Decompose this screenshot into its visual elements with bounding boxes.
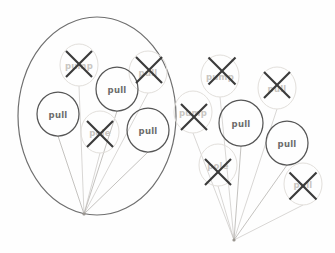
convergence-point-layer xyxy=(82,212,235,241)
node-outline-l3 xyxy=(96,67,138,111)
edge-l6-to-convergence-left xyxy=(84,152,148,214)
node-outline-r2 xyxy=(258,67,296,109)
node-l3-pull-kept[interactable]: pull xyxy=(96,67,138,111)
node-outline-r5 xyxy=(266,121,308,165)
node-label-l4: pull xyxy=(49,110,68,120)
cross-out-icon-l2[interactable] xyxy=(136,57,162,83)
diagram-canvas: pumppullpullpullpolepullpumppullpumppull… xyxy=(0,0,335,253)
node-label-r5: pull xyxy=(278,139,297,149)
node-label-l3: pull xyxy=(108,85,127,95)
node-outline-r1 xyxy=(201,55,239,97)
node-outline-l6 xyxy=(127,108,169,152)
node-r1-pump-removed[interactable]: pump xyxy=(201,55,239,97)
cross-out-icon-l1[interactable] xyxy=(66,51,92,77)
edge-l3-to-convergence-left xyxy=(84,111,117,214)
node-outline-r4 xyxy=(219,100,263,146)
node-r2-pull-removed[interactable]: pull xyxy=(258,67,296,109)
edge-r4-to-convergence-right xyxy=(234,146,241,240)
node-r3-pump-removed[interactable]: pump xyxy=(174,91,212,133)
node-layer: pumppullpullpullpolepullpumppullpumppull… xyxy=(37,44,322,205)
node-label-r7: pull xyxy=(294,180,313,190)
node-outline-r6 xyxy=(199,144,237,186)
cross-out-icon-r7[interactable] xyxy=(290,173,317,200)
cluster-diagram-svg: pumppullpullpullpolepullpumppullpumppull… xyxy=(0,0,335,253)
node-l4-pull-kept[interactable]: pull xyxy=(37,92,79,136)
edge-l5-to-convergence-left xyxy=(84,153,100,214)
convergence-point-open-cluster xyxy=(232,238,235,241)
node-r5-pull-kept[interactable]: pull xyxy=(266,121,308,165)
edge-r7-to-convergence-right xyxy=(234,205,303,240)
cross-out-icon-r2[interactable] xyxy=(264,72,290,98)
edge-layer xyxy=(58,86,303,240)
cluster-hull-enclosed-cluster xyxy=(18,17,176,215)
convergence-point-enclosed-cluster xyxy=(82,212,85,215)
node-label-r4: pull xyxy=(232,119,251,129)
node-outline-l4 xyxy=(37,92,79,136)
edge-l4-to-convergence-left xyxy=(58,136,84,214)
node-label-l6: pull xyxy=(139,126,158,136)
node-label-l1: pump xyxy=(65,61,93,71)
edge-r5-to-convergence-right xyxy=(234,165,287,240)
cross-out-icon-l5[interactable] xyxy=(87,121,113,147)
node-l6-pull-kept[interactable]: pull xyxy=(127,108,169,152)
edge-r3-to-convergence-right xyxy=(193,133,234,240)
edge-l1-to-convergence-left xyxy=(79,86,84,214)
node-outline-r3 xyxy=(174,91,212,133)
node-r4-pull-kept[interactable]: pull xyxy=(219,100,263,146)
cluster-hull-layer xyxy=(18,17,176,215)
cross-out-icon-r1[interactable] xyxy=(209,58,236,85)
node-r6-pole-removed[interactable]: pole xyxy=(199,144,237,186)
cross-out-icon-r3[interactable] xyxy=(181,104,207,130)
